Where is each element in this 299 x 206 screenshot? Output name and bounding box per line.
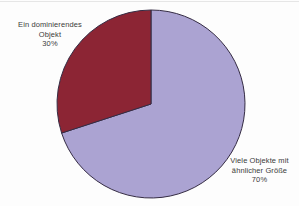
label-line: Objekt	[11, 30, 89, 40]
pie-chart: Ein dominierendes Objekt 30% Viele Objek…	[0, 0, 299, 206]
label-line: Ein dominierendes	[11, 20, 89, 30]
label-line: Viele Objekte mit	[222, 156, 297, 166]
label-line: ähnlicher Größe	[222, 166, 297, 176]
label-line: 30%	[11, 39, 89, 49]
label-line: 70%	[222, 175, 297, 185]
slice-label-similar-objects: Viele Objekte mit ähnlicher Größe 70%	[222, 156, 297, 185]
slice-label-dominant-object: Ein dominierendes Objekt 30%	[11, 20, 89, 49]
